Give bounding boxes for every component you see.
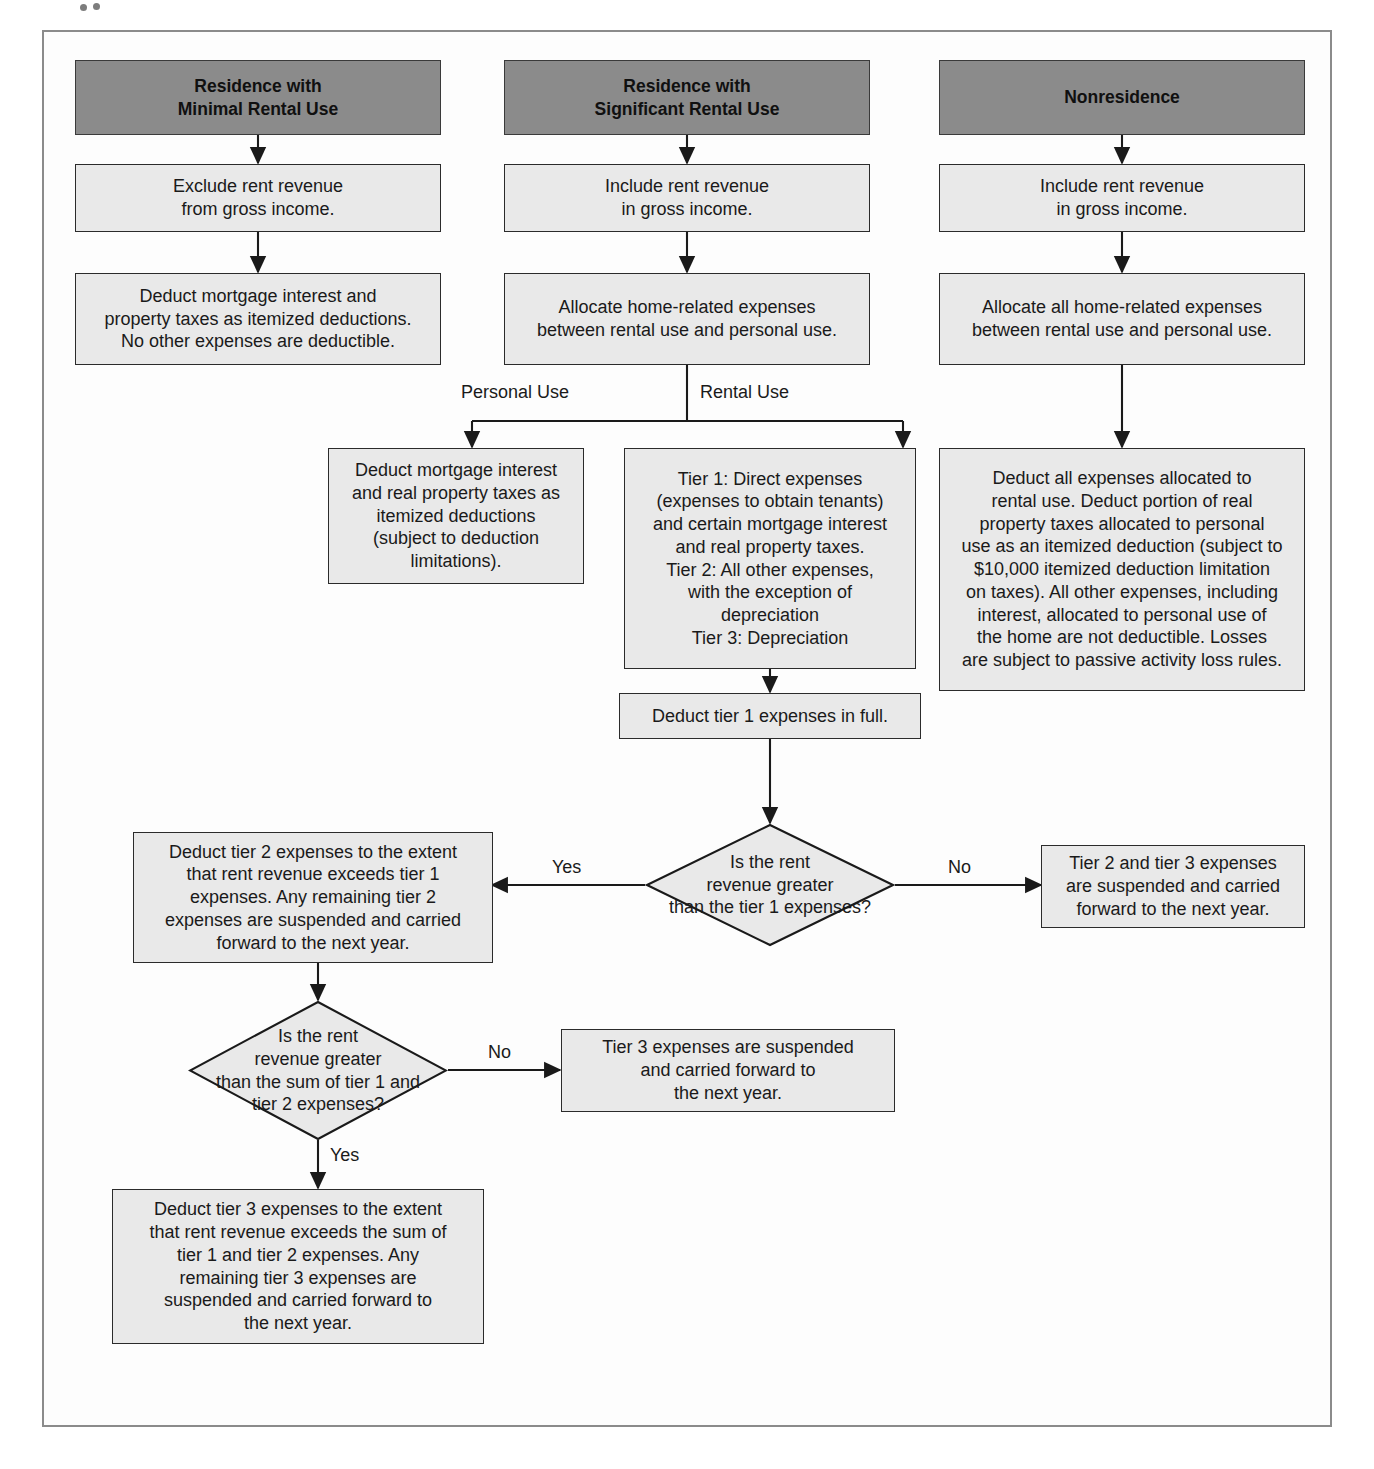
diagram-canvas: Residence with Minimal Rental Use Exclud… — [0, 0, 1374, 1469]
decision-label: Is the rent revenue greater than the tie… — [645, 823, 895, 947]
node-deduct-tier3-expenses: Deduct tier 3 expenses to the extent tha… — [112, 1189, 484, 1344]
node-personal-use-deduct-itemized: Deduct mortgage interest and real proper… — [328, 448, 584, 584]
scan-speck — [80, 4, 87, 11]
header-residence-minimal-rental-use: Residence with Minimal Rental Use — [75, 60, 441, 135]
node-include-rent-revenue-significant: Include rent revenue in gross income. — [504, 164, 870, 232]
node-deduct-tier2-expenses: Deduct tier 2 expenses to the extent tha… — [133, 832, 493, 963]
edge-label-rental-use: Rental Use — [700, 382, 789, 403]
decision-rent-revenue-vs-tier1-plus-tier2: Is the rent revenue greater than the sum… — [188, 1000, 448, 1141]
node-label: Deduct all expenses allocated to rental … — [940, 467, 1304, 671]
header-label: Residence with Minimal Rental Use — [76, 75, 440, 119]
scan-speck — [93, 3, 100, 10]
decision-rent-revenue-vs-tier1: Is the rent revenue greater than the tie… — [645, 823, 895, 947]
node-label: Exclude rent revenue from gross income. — [76, 175, 440, 220]
node-label: Tier 1: Direct expenses (expenses to obt… — [625, 468, 915, 649]
node-label: Include rent revenue in gross income. — [940, 175, 1304, 220]
edge-label-decision2-yes: Yes — [330, 1145, 359, 1166]
node-deduct-tier1-in-full: Deduct tier 1 expenses in full. — [619, 693, 921, 739]
node-exclude-rent-revenue: Exclude rent revenue from gross income. — [75, 164, 441, 232]
node-label: Include rent revenue in gross income. — [505, 175, 869, 220]
node-tier3-suspended: Tier 3 expenses are suspended and carrie… — [561, 1029, 895, 1112]
node-label: Allocate home-related expenses between r… — [505, 296, 869, 341]
node-nonresidence-deduction-rules: Deduct all expenses allocated to rental … — [939, 448, 1305, 691]
node-deduct-mortgage-interest-itemized: Deduct mortgage interest and property ta… — [75, 273, 441, 365]
node-label: Deduct tier 1 expenses in full. — [620, 705, 920, 728]
edge-label-decision1-no: No — [948, 857, 971, 878]
edge-label-decision2-no: No — [488, 1042, 511, 1063]
node-include-rent-revenue-nonresidence: Include rent revenue in gross income. — [939, 164, 1305, 232]
decision-label: Is the rent revenue greater than the sum… — [188, 1000, 448, 1141]
node-tier2-tier3-suspended: Tier 2 and tier 3 expenses are suspended… — [1041, 845, 1305, 928]
header-label: Residence with Significant Rental Use — [505, 75, 869, 119]
node-label: Tier 2 and tier 3 expenses are suspended… — [1042, 852, 1304, 920]
node-label: Deduct mortgage interest and property ta… — [76, 285, 440, 353]
node-label: Deduct tier 3 expenses to the extent tha… — [113, 1198, 483, 1334]
node-allocate-home-related-expenses: Allocate home-related expenses between r… — [504, 273, 870, 365]
node-label: Tier 3 expenses are suspended and carrie… — [562, 1036, 894, 1104]
node-rental-use-tiers: Tier 1: Direct expenses (expenses to obt… — [624, 448, 916, 669]
node-allocate-all-home-related-expenses: Allocate all home-related expenses betwe… — [939, 273, 1305, 365]
edge-label-decision1-yes: Yes — [552, 857, 581, 878]
header-nonresidence: Nonresidence — [939, 60, 1305, 135]
header-residence-significant-rental-use: Residence with Significant Rental Use — [504, 60, 870, 135]
node-label: Allocate all home-related expenses betwe… — [940, 296, 1304, 341]
edge-label-personal-use: Personal Use — [461, 382, 569, 403]
node-label: Deduct mortgage interest and real proper… — [329, 459, 583, 572]
node-label: Deduct tier 2 expenses to the extent tha… — [134, 841, 492, 954]
header-label: Nonresidence — [940, 86, 1304, 108]
